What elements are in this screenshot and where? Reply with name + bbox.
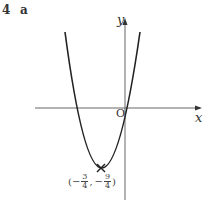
y-denominator: 4 — [105, 182, 110, 190]
y-axis-label: y — [117, 12, 124, 27]
x-denominator: 4 — [82, 182, 87, 190]
parabola-curve — [65, 32, 140, 168]
x-axis-label: x — [195, 110, 202, 125]
origin-label: O — [116, 107, 125, 120]
y-fraction: 9 4 — [104, 173, 111, 190]
x-fraction: 3 4 — [81, 173, 88, 190]
x-sign: − — [72, 176, 80, 187]
separator: , — [89, 176, 92, 187]
vertex-label: ( − 3 4 , − 9 4 ) — [68, 173, 116, 190]
paren-close: ) — [112, 176, 116, 187]
y-sign: − — [95, 176, 103, 187]
